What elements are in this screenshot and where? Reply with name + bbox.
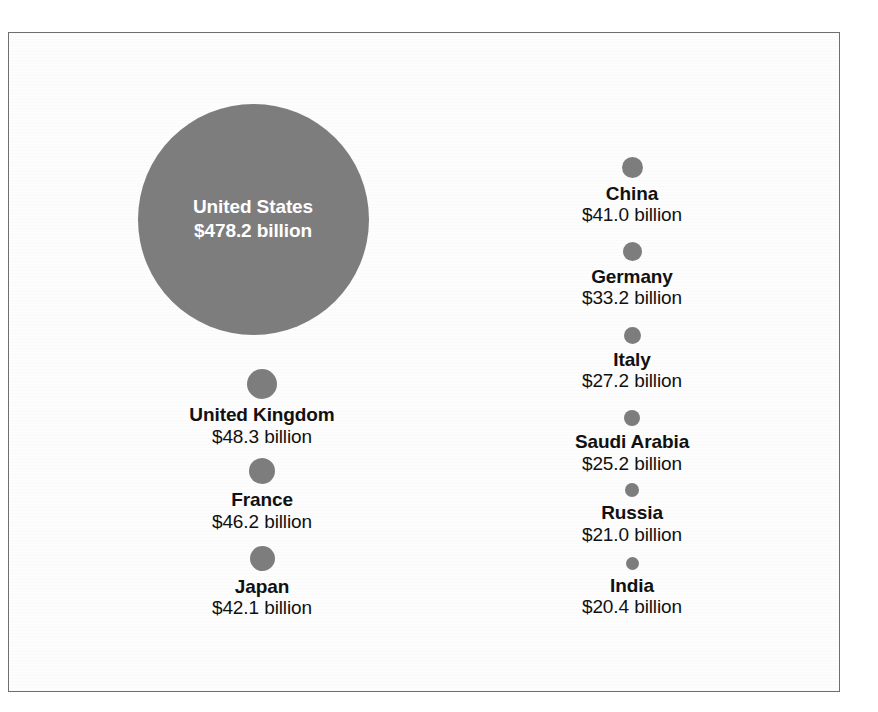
bubble-group-china[interactable]: China$41.0 billion bbox=[482, 157, 782, 228]
bubble-group-india[interactable]: India$20.4 billion bbox=[482, 557, 782, 620]
bubble-value-india: $20.4 billion bbox=[482, 596, 782, 619]
bubble-label-japan: Japan bbox=[112, 576, 412, 598]
bubble-group-france[interactable]: France$46.2 billion bbox=[112, 458, 412, 534]
bubble-value-italy: $27.2 billion bbox=[482, 370, 782, 393]
bubble-circle-united-states: United States$478.2 billion bbox=[138, 104, 369, 335]
bubble-value-russia: $21.0 billion bbox=[482, 524, 782, 547]
bubble-circle-france bbox=[249, 458, 275, 484]
bubble-circle-united-kingdom bbox=[247, 369, 277, 399]
bubble-value-china: $41.0 billion bbox=[482, 204, 782, 227]
bubble-value-france: $46.2 billion bbox=[112, 511, 412, 534]
bubble-circle-italy bbox=[624, 327, 641, 344]
bubble-circle-saudi-arabia bbox=[624, 410, 640, 426]
bubble-circle-russia bbox=[625, 483, 639, 497]
bubble-value-united-states: $478.2 billion bbox=[194, 219, 312, 243]
bubble-circle-japan bbox=[250, 546, 275, 571]
bubble-value-united-kingdom: $48.3 billion bbox=[112, 426, 412, 449]
bubble-label-china: China bbox=[482, 183, 782, 205]
bubble-group-japan[interactable]: Japan$42.1 billion bbox=[112, 546, 412, 621]
bubble-label-united-kingdom: United Kingdom bbox=[112, 404, 412, 426]
bubble-label-india: India bbox=[482, 575, 782, 597]
bubble-label-italy: Italy bbox=[482, 349, 782, 371]
bubble-label-russia: Russia bbox=[482, 502, 782, 524]
bubble-value-japan: $42.1 billion bbox=[112, 597, 412, 620]
bubble-group-saudi-arabia[interactable]: Saudi Arabia$25.2 billion bbox=[482, 410, 782, 476]
bubble-value-germany: $33.2 billion bbox=[482, 287, 782, 310]
bubble-group-russia[interactable]: Russia$21.0 billion bbox=[482, 483, 782, 547]
bubble-value-saudi-arabia: $25.2 billion bbox=[482, 453, 782, 476]
bubble-circle-india bbox=[626, 557, 639, 570]
bubble-chart-frame: United States$478.2 billionUnited Kingdo… bbox=[8, 32, 840, 692]
bubble-label-united-states: United States bbox=[193, 195, 313, 219]
bubble-label-france: France bbox=[112, 489, 412, 511]
bubble-group-germany[interactable]: Germany$33.2 billion bbox=[482, 242, 782, 311]
bubble-united-states[interactable]: United States$478.2 billion bbox=[138, 104, 369, 335]
bubble-circle-china bbox=[622, 157, 643, 178]
bubble-group-italy[interactable]: Italy$27.2 billion bbox=[482, 327, 782, 394]
bubble-label-germany: Germany bbox=[482, 266, 782, 288]
bubble-label-saudi-arabia: Saudi Arabia bbox=[482, 431, 782, 453]
bubble-circle-germany bbox=[623, 242, 642, 261]
bubble-group-united-kingdom[interactable]: United Kingdom$48.3 billion bbox=[112, 369, 412, 449]
